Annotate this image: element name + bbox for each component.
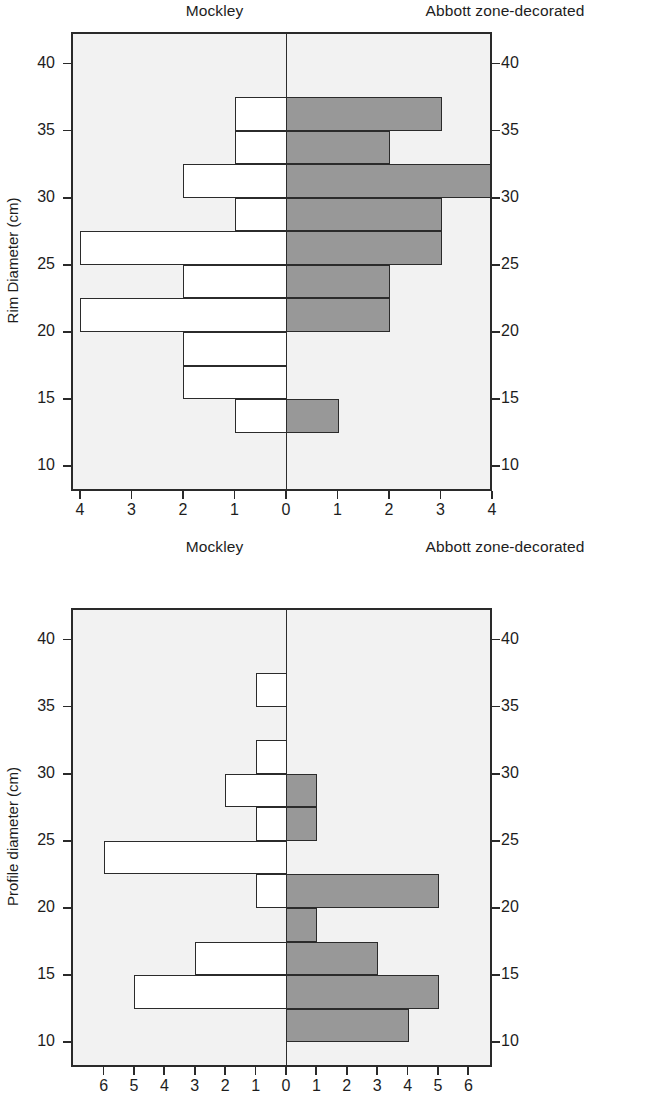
x-axis-right-tick xyxy=(407,1067,409,1075)
x-axis-left-label: 1 xyxy=(220,501,250,519)
x-axis-left-tick xyxy=(182,491,184,499)
histogram-bar xyxy=(235,97,288,131)
x-axis-right-label: 2 xyxy=(332,1077,362,1095)
y-axis-tick-label-left: 35 xyxy=(9,697,55,715)
histogram-bar xyxy=(286,265,390,299)
histogram-bar xyxy=(134,975,287,1009)
x-axis-right-tick xyxy=(346,1067,348,1075)
x-axis-left-label: 4 xyxy=(149,1077,179,1095)
y-axis-tick-right xyxy=(491,907,500,909)
y-axis-tick-label-right: 20 xyxy=(501,322,547,340)
y-axis-tick-label-right: 10 xyxy=(501,456,547,474)
y-axis-tick-right xyxy=(491,840,500,842)
y-axis-tick-label-left: 25 xyxy=(9,255,55,273)
y-axis-tick-label-right: 25 xyxy=(501,831,547,849)
x-axis-right-label: 3 xyxy=(362,1077,392,1095)
x-axis-left-tick xyxy=(133,1067,135,1075)
x-axis-left-label: 3 xyxy=(117,501,147,519)
y-axis-tick-label-right: 25 xyxy=(501,255,547,273)
x-axis-right-tick xyxy=(437,1067,439,1075)
x-axis-left-tick xyxy=(103,1067,105,1075)
histogram-bar xyxy=(256,807,287,841)
y-axis-tick-label-right: 40 xyxy=(501,630,547,648)
y-axis-tick-left xyxy=(63,465,72,467)
y-axis-tick-right xyxy=(491,465,500,467)
y-axis-tick-right xyxy=(491,773,500,775)
x-axis-left-tick xyxy=(163,1067,165,1075)
histogram-bar xyxy=(183,164,287,198)
x-axis-right-label: 6 xyxy=(453,1077,483,1095)
y-axis-tick-right xyxy=(491,331,500,333)
histogram-bar xyxy=(80,298,287,332)
y-axis-tick-label-right: 20 xyxy=(501,898,547,916)
y-axis-tick-label-left: 40 xyxy=(9,630,55,648)
x-axis-zero-label: 0 xyxy=(271,501,301,519)
histogram-bar xyxy=(286,198,442,232)
histogram-bar xyxy=(183,332,287,366)
y-axis-tick-left xyxy=(63,974,72,976)
x-axis-left-label: 6 xyxy=(89,1077,119,1095)
y-axis-tick-label-left: 10 xyxy=(9,456,55,474)
x-axis-left-tick xyxy=(255,1067,257,1075)
plot-frame-rim-diameter xyxy=(71,32,492,491)
y-axis-tick-label-left: 20 xyxy=(9,898,55,916)
y-axis-tick-left xyxy=(63,907,72,909)
histogram-bar xyxy=(183,366,287,400)
x-axis-left-label: 1 xyxy=(241,1077,271,1095)
histogram-bar xyxy=(256,740,287,774)
histogram-bar xyxy=(286,975,439,1009)
y-axis-tick-right xyxy=(491,398,500,400)
y-axis-tick-label-left: 35 xyxy=(9,121,55,139)
y-axis-tick-right xyxy=(491,639,500,641)
histogram-bar xyxy=(286,164,490,198)
histogram-bar xyxy=(195,942,287,976)
x-axis-right-tick xyxy=(467,1067,469,1075)
x-axis-right-tick xyxy=(337,491,339,499)
y-axis-tick-left xyxy=(63,264,72,266)
x-axis-right-tick xyxy=(440,491,442,499)
histogram-bar xyxy=(235,399,288,433)
panel-header-bottom: Mockley Abbott zone-decorated xyxy=(0,538,672,564)
chart-panel-rim-diameter: Mockley Abbott zone-decorated Rim Diamet… xyxy=(0,0,672,540)
histogram-bar xyxy=(225,774,287,808)
histogram-bar xyxy=(80,231,287,265)
x-axis-right-label: 4 xyxy=(393,1077,423,1095)
y-axis-tick-right xyxy=(491,197,500,199)
y-axis-tick-label-left: 15 xyxy=(9,389,55,407)
x-axis-right-tick xyxy=(376,1067,378,1075)
y-axis-tick-left xyxy=(63,1041,72,1043)
panel-title-right-abbott: Abbott zone-decorated xyxy=(285,538,672,556)
histogram-bar xyxy=(235,131,288,165)
x-axis-right-label: 3 xyxy=(426,501,456,519)
x-axis-zero-tick xyxy=(285,1067,287,1075)
x-axis-right-label: 5 xyxy=(423,1077,453,1095)
histogram-bar xyxy=(286,131,390,165)
y-axis-tick-label-right: 35 xyxy=(501,121,547,139)
histogram-bar xyxy=(286,97,442,131)
y-axis-tick-label-right: 30 xyxy=(501,764,547,782)
x-axis-left-tick xyxy=(194,1067,196,1075)
histogram-bar xyxy=(286,774,317,808)
y-axis-tick-left xyxy=(63,63,72,65)
x-axis-left-tick xyxy=(131,491,133,499)
y-axis-tick-right xyxy=(491,706,500,708)
x-axis-left-tick xyxy=(79,491,81,499)
histogram-bar xyxy=(256,874,287,908)
y-axis-tick-left xyxy=(63,639,72,641)
x-axis-right-label: 1 xyxy=(323,501,353,519)
histogram-bar xyxy=(104,841,287,875)
histogram-bar xyxy=(286,807,317,841)
x-axis-left-tick xyxy=(224,1067,226,1075)
y-axis-tick-left xyxy=(63,197,72,199)
x-axis-left-label: 2 xyxy=(210,1077,240,1095)
plot-frame-profile-diameter xyxy=(71,608,492,1067)
chart-panel-profile-diameter: Mockley Abbott zone-decorated Profile di… xyxy=(0,536,672,1076)
histogram-bar xyxy=(256,673,287,707)
y-axis-tick-label-right: 10 xyxy=(501,1032,547,1050)
y-axis-tick-label-left: 10 xyxy=(9,1032,55,1050)
histogram-bar xyxy=(286,1009,409,1043)
y-axis-tick-right xyxy=(491,974,500,976)
y-axis-tick-label-right: 15 xyxy=(501,389,547,407)
y-axis-tick-label-right: 35 xyxy=(501,697,547,715)
